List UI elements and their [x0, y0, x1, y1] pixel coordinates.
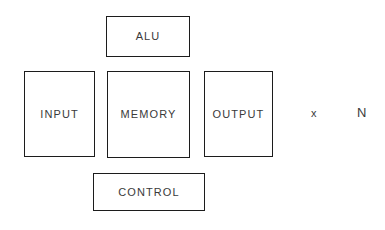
block-alu[interactable]: ALU: [106, 16, 190, 57]
diagram-canvas: ALU INPUT MEMORY OUTPUT CONTROL x N: [0, 0, 385, 230]
annotation-symbol-n: N: [357, 106, 366, 119]
block-control-label: CONTROL: [118, 187, 179, 198]
block-output-label: OUTPUT: [213, 109, 265, 120]
block-alu-label: ALU: [136, 31, 161, 42]
block-memory[interactable]: MEMORY: [107, 71, 190, 158]
annotation-symbol-x: x: [311, 108, 317, 119]
block-memory-label: MEMORY: [121, 109, 177, 120]
block-control[interactable]: CONTROL: [93, 173, 205, 211]
block-input[interactable]: INPUT: [24, 71, 95, 157]
block-output[interactable]: OUTPUT: [204, 71, 273, 157]
block-input-label: INPUT: [40, 109, 79, 120]
